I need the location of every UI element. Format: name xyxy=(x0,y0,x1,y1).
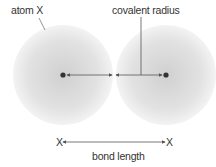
bond-length-label: bond length xyxy=(92,150,145,162)
atom-label-leader xyxy=(39,18,45,30)
bond-end-right-label: X xyxy=(166,136,173,148)
atom-x-label: atom X xyxy=(11,4,43,16)
nucleus-left xyxy=(60,72,65,77)
covalent-radius-label: covalent radius xyxy=(112,4,180,16)
nucleus-right xyxy=(163,72,168,77)
bond-diagram xyxy=(0,0,216,167)
bond-end-left-label: X xyxy=(56,136,63,148)
